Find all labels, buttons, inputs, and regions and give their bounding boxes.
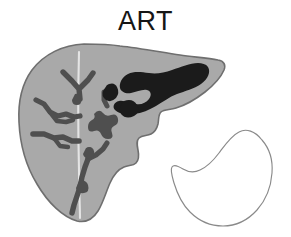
spleen-organ <box>171 130 272 226</box>
spleen-outline-shape <box>171 130 272 226</box>
figure-root: ART <box>0 0 291 237</box>
anatomy-illustration <box>0 0 291 237</box>
